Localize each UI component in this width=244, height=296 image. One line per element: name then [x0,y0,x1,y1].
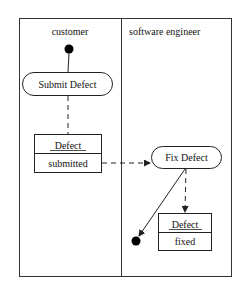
action-fix-defect-label: Fix Defect [165,152,208,163]
edge-fix-to-defect-fixed [185,169,186,212]
object-defect-submitted-name: Defect [55,140,82,151]
lane-label-customer: customer [52,26,89,37]
object-defect-fixed-state: fixed [175,236,196,247]
object-defect-fixed-name: Defect [172,219,199,230]
initial-node [65,45,74,54]
lane-label-software-engineer: software engineer [129,26,201,37]
activity-diagram: customer software engineer Submit Defect… [0,0,244,296]
action-submit-defect-label: Submit Defect [38,79,96,90]
edge-initial-to-submit [68,53,69,72]
object-defect-submitted-state: submitted [48,158,87,169]
final-node [132,237,141,246]
